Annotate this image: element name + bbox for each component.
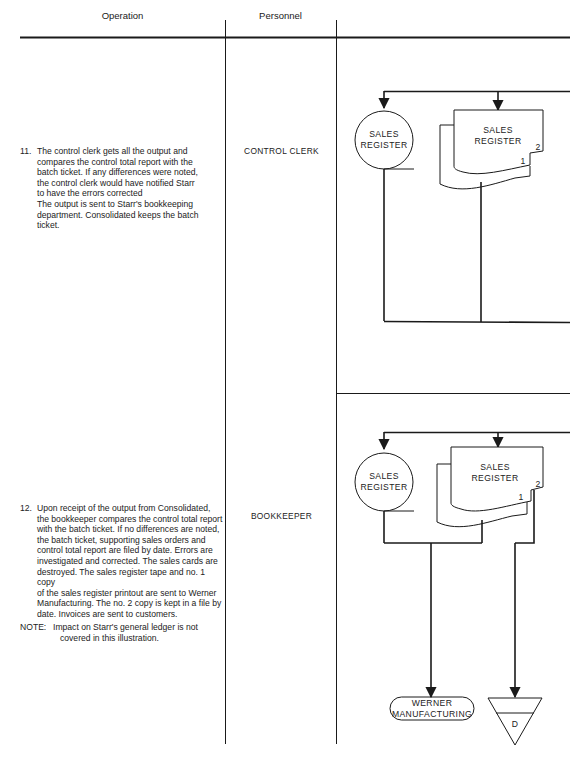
document-label: SALES	[483, 125, 513, 135]
storage-label: SALES	[369, 471, 399, 481]
storage-label: REGISTER	[360, 482, 407, 492]
flowchart-canvas: SALES REGISTER SALES REGISTER 1 2 SALES …	[0, 0, 570, 757]
storage-label: REGISTER	[360, 140, 407, 150]
storage-label: SALES	[369, 129, 399, 139]
document-label: SALES	[480, 462, 510, 472]
copy-number-1: 1	[520, 156, 525, 166]
copy-number-1: 1	[518, 492, 523, 502]
document-label: REGISTER	[474, 136, 521, 146]
document-label: REGISTER	[471, 473, 518, 483]
terminal-label: MANUFACTURING	[392, 709, 472, 719]
copy-number-2: 2	[535, 479, 540, 489]
step-11-flowchart	[355, 91, 570, 323]
file-label: D	[512, 719, 519, 729]
flow-line	[384, 322, 570, 323]
terminal-label: WERNER	[412, 698, 453, 708]
copy-number-2: 2	[535, 142, 540, 152]
